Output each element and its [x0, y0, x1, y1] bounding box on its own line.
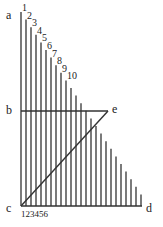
label-b: b: [6, 103, 12, 117]
label-c: c: [6, 201, 11, 215]
label-e: e: [112, 102, 117, 116]
bottom-number-labels: 123456: [21, 209, 49, 219]
label-a: a: [6, 8, 12, 22]
top-number-label: 10: [67, 70, 77, 81]
staircase-triangle-diagram: 12345678910 a b c d e 123456: [0, 0, 163, 227]
top-number-labels: 12345678910: [22, 2, 77, 81]
label-d: d: [146, 201, 152, 215]
diagram-canvas: 12345678910 a b c d e 123456: [0, 0, 163, 227]
vertical-lines: [21, 12, 141, 206]
line-c-e: [21, 111, 108, 206]
